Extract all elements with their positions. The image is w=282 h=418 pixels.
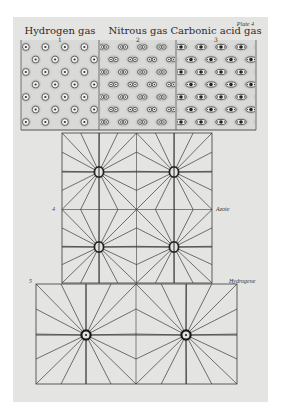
gas-panel xyxy=(10,40,270,130)
figure-5-number: 5 xyxy=(29,278,32,284)
gas-title-nitrous: Nitrous gas xyxy=(108,25,167,36)
figure-4-number: 4 xyxy=(52,206,55,212)
figure-5-side-label: Hydrogene xyxy=(228,278,256,284)
figure-4-side-label: Azote xyxy=(215,206,230,212)
gas-number-3: 3 xyxy=(214,36,218,43)
gas-title-hydrogen: Hydrogen gas xyxy=(24,25,95,36)
plate-illustration: Hydrogen gas 1 Nitrous gas 2 Carbonic ac… xyxy=(0,0,282,418)
plate-label: Plate 4 xyxy=(236,21,254,27)
gas-number-2: 2 xyxy=(136,36,140,43)
gas-number-1: 1 xyxy=(58,36,62,43)
